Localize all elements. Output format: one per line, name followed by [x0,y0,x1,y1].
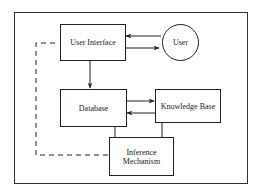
user-interface-box: User Interface [60,24,126,61]
user-label: User [173,38,188,47]
inference-mechanism-label: Inference Mechanism [123,148,160,166]
user-interface-label: User Interface [70,38,116,47]
user-circle: User [162,24,199,61]
inference-mechanism-box: Inference Mechanism [109,137,174,176]
knowledge-base-box: Knowledge Base [155,89,221,123]
database-box: Database [60,89,127,127]
knowledge-base-label: Knowledge Base [161,102,215,111]
database-label: Database [79,104,108,113]
